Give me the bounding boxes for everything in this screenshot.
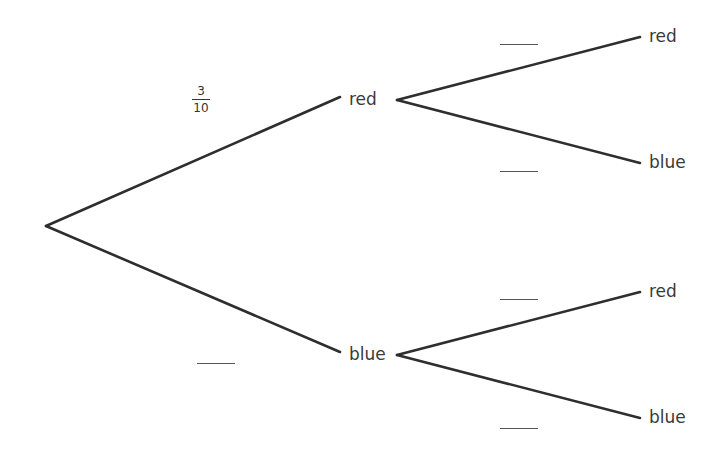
branch-red-to-blue (397, 100, 640, 163)
tree-branches (0, 0, 728, 465)
outcome-label-blue: blue (349, 346, 386, 363)
fraction-denominator: 10 (191, 101, 211, 114)
outcome-label-red-blue: blue (649, 154, 686, 171)
branch-red-to-red (397, 37, 640, 100)
fraction-bar (192, 99, 210, 100)
branch-root-to-red (46, 97, 340, 226)
probability-blank-blue-blue[interactable] (500, 428, 538, 429)
branch-blue-to-red (397, 292, 640, 355)
fraction-numerator: 3 (191, 85, 211, 98)
probability-blank-red-red[interactable] (500, 44, 538, 45)
branch-blue-to-blue (397, 355, 640, 418)
probability-root-red: 3 10 (191, 85, 211, 114)
branch-root-to-blue (46, 226, 340, 352)
outcome-label-red: red (349, 91, 377, 108)
outcome-label-blue-red: red (649, 283, 677, 300)
probability-blank-red-blue[interactable] (500, 171, 538, 172)
probability-blank-blue-red[interactable] (500, 299, 538, 300)
outcome-label-red-red: red (649, 28, 677, 45)
outcome-label-blue-blue: blue (649, 409, 686, 426)
probability-blank-root-blue[interactable] (197, 363, 235, 364)
